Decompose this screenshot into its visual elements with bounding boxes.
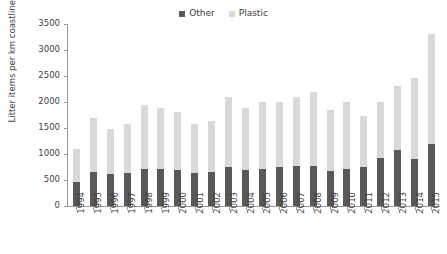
bar-group[interactable] — [68, 24, 85, 206]
bar-stack — [276, 102, 283, 206]
bars-layer — [68, 24, 440, 206]
bar-segment-plastic — [225, 97, 232, 167]
bar-group[interactable] — [169, 24, 186, 206]
bar-segment-plastic — [242, 108, 249, 170]
y-tick-label: 1500 — [38, 122, 60, 133]
bar-group[interactable] — [305, 24, 322, 206]
bar-segment-plastic — [157, 108, 164, 169]
bar-stack — [411, 78, 418, 206]
bar-group[interactable] — [288, 24, 305, 206]
plot-area: 0500100015002000250030003500 — [68, 24, 440, 206]
x-label-cell: 2011 — [355, 210, 372, 252]
bar-segment-plastic — [107, 129, 114, 175]
x-label-cell: 2005 — [254, 210, 271, 252]
x-label-cell: 2015 — [423, 210, 440, 252]
bar-segment-plastic — [428, 34, 435, 143]
bar-segment-plastic — [124, 124, 131, 173]
bar-group[interactable] — [322, 24, 339, 206]
bar-segment-plastic — [191, 124, 198, 173]
litter-stacked-bar-chart: Other Plastic Litter items per km coastl… — [0, 0, 447, 254]
bar-group[interactable] — [102, 24, 119, 206]
bar-group[interactable] — [237, 24, 254, 206]
x-label-cell: 1995 — [85, 210, 102, 252]
bar-segment-plastic — [327, 110, 334, 171]
legend-label-other: Other — [189, 9, 215, 18]
bar-segment-plastic — [293, 97, 300, 166]
bar-stack — [141, 105, 148, 206]
bar-group[interactable] — [220, 24, 237, 206]
x-label-cell: 2002 — [203, 210, 220, 252]
y-tick: 3000 — [32, 50, 68, 51]
y-tick-label: 500 — [44, 174, 60, 185]
bar-segment-plastic — [174, 112, 181, 170]
y-tick: 3500 — [32, 24, 68, 25]
y-tick: 2000 — [32, 102, 68, 103]
legend-item-plastic: Plastic — [229, 9, 268, 18]
x-label-cell: 1994 — [68, 210, 85, 252]
bar-group[interactable] — [153, 24, 170, 206]
bar-stack — [310, 92, 317, 206]
legend-label-plastic: Plastic — [239, 9, 268, 18]
bar-group[interactable] — [203, 24, 220, 206]
y-tick-label: 0 — [55, 200, 60, 211]
x-label-cell: 2007 — [288, 210, 305, 252]
bar-stack — [225, 97, 232, 206]
x-label-cell: 2013 — [389, 210, 406, 252]
x-label-cell: 1999 — [153, 210, 170, 252]
bar-group[interactable] — [423, 24, 440, 206]
bar-segment-plastic — [90, 118, 97, 172]
x-axis-labels: 1994199519961997199819992000200120022003… — [68, 210, 440, 252]
y-tick-label: 1000 — [38, 148, 60, 159]
bar-segment-plastic — [411, 78, 418, 159]
bar-stack — [259, 102, 266, 206]
x-label-cell: 1998 — [136, 210, 153, 252]
bar-group[interactable] — [271, 24, 288, 206]
x-label-cell: 2010 — [339, 210, 356, 252]
bar-segment-plastic — [141, 105, 148, 169]
bar-group[interactable] — [389, 24, 406, 206]
bar-group[interactable] — [406, 24, 423, 206]
bar-group[interactable] — [186, 24, 203, 206]
bar-segment-plastic — [310, 92, 317, 167]
y-tick: 2500 — [32, 76, 68, 77]
bar-group[interactable] — [355, 24, 372, 206]
bar-segment-plastic — [276, 102, 283, 167]
bar-group[interactable] — [372, 24, 389, 206]
x-label-cell: 2008 — [305, 210, 322, 252]
x-label-cell: 2006 — [271, 210, 288, 252]
bar-group[interactable] — [119, 24, 136, 206]
bar-segment-plastic — [343, 102, 350, 169]
x-label-cell: 2001 — [186, 210, 203, 252]
y-tick-label: 2000 — [38, 96, 60, 107]
legend-item-other: Other — [179, 9, 215, 18]
bar-stack — [394, 86, 401, 206]
x-label-cell: 2004 — [237, 210, 254, 252]
bar-stack — [428, 34, 435, 206]
x-axis-label: 2015 — [431, 192, 441, 232]
x-label-cell: 2014 — [406, 210, 423, 252]
y-tick: 1500 — [32, 128, 68, 129]
bar-group[interactable] — [85, 24, 102, 206]
bar-stack — [343, 102, 350, 206]
y-tick-label: 3000 — [38, 44, 60, 55]
y-axis-title: Litter items per km coastline (no. piece… — [5, 0, 19, 125]
bar-stack — [293, 97, 300, 206]
x-label-cell: 2000 — [169, 210, 186, 252]
bar-segment-plastic — [377, 102, 384, 158]
bar-group[interactable] — [339, 24, 356, 206]
y-tick: 500 — [32, 180, 68, 181]
bar-group[interactable] — [136, 24, 153, 206]
bar-segment-plastic — [394, 86, 401, 150]
bar-segment-plastic — [360, 116, 367, 167]
x-label-cell: 2009 — [322, 210, 339, 252]
legend-swatch-other — [179, 11, 185, 17]
legend-swatch-plastic — [229, 11, 235, 17]
x-label-cell: 2003 — [220, 210, 237, 252]
bar-group[interactable] — [254, 24, 271, 206]
bar-segment-plastic — [73, 149, 80, 182]
y-tick: 1000 — [32, 154, 68, 155]
bar-stack — [377, 102, 384, 206]
x-label-cell: 1997 — [119, 210, 136, 252]
y-tick-label: 3500 — [38, 18, 60, 29]
x-label-cell: 1996 — [102, 210, 119, 252]
